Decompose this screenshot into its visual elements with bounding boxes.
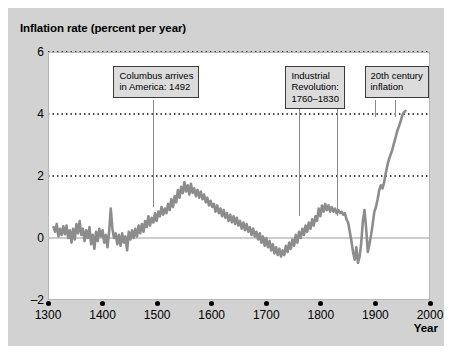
annotation-box-columbus: Columbus arrivesin America: 1492 (113, 66, 199, 98)
annotation-leader-line-20th-century-inflation-1900 (375, 100, 376, 117)
annotation-line: 1760–1830 (291, 93, 339, 105)
y-axis-title: Inflation rate (percent per year) (20, 22, 186, 34)
x-tick-label-2000: 2000 (417, 308, 444, 322)
annotation-box-20th-century-inflation: 20th centuryinflation (365, 66, 429, 98)
annotation-leader-line-industrial-revolution-1830 (337, 100, 338, 216)
annotation-line: Industrial (291, 70, 339, 82)
y-tick-label--2: –2 (4, 293, 44, 307)
annotation-leader-line-industrial-revolution-1760 (299, 100, 300, 216)
x-tick-label-1400: 1400 (89, 308, 116, 322)
y-tick-label-6: 6 (4, 45, 44, 59)
x-tick-label-1600: 1600 (198, 308, 225, 322)
x-tick-dot-1600 (209, 301, 214, 306)
y-tick-label-4: 4 (4, 107, 44, 121)
x-axis-title: Year (414, 322, 438, 334)
x-axis-tick-labels: 13001400150016001700180019002000 (48, 300, 430, 330)
annotation-box-industrial-revolution: IndustrialRevolution:1760–1830 (285, 66, 345, 110)
x-tick-label-1300: 1300 (35, 308, 62, 322)
x-tick-dot-1700 (264, 301, 269, 306)
x-tick-label-1500: 1500 (144, 308, 171, 322)
x-tick-dot-1800 (318, 301, 323, 306)
x-tick-dot-1500 (155, 301, 160, 306)
annotation-line: Columbus arrives (119, 70, 193, 82)
x-tick-dot-2000 (428, 301, 433, 306)
x-tick-dot-1400 (100, 301, 105, 306)
x-tick-label-1900: 1900 (362, 308, 389, 322)
figure-container: Inflation rate (percent per year) –20246… (0, 0, 452, 354)
x-tick-dot-1900 (373, 301, 378, 306)
x-tick-dot-1300 (46, 301, 51, 306)
y-tick-label-2: 2 (4, 169, 44, 183)
annotation-leader-line-columbus-1492 (153, 100, 154, 207)
y-axis-tick-labels: –20246 (0, 52, 44, 300)
annotation-line: inflation (371, 81, 423, 93)
annotation-leader-line-20th-century-inflation-1935 (395, 100, 396, 117)
series-line-inflation-rate (53, 111, 405, 263)
y-tick-label-0: 0 (4, 231, 44, 245)
x-tick-label-1700: 1700 (253, 308, 280, 322)
annotation-line: in America: 1492 (119, 81, 193, 93)
x-tick-label-1800: 1800 (307, 308, 334, 322)
annotation-line: Revolution: (291, 81, 339, 93)
annotation-line: 20th century (371, 70, 423, 82)
